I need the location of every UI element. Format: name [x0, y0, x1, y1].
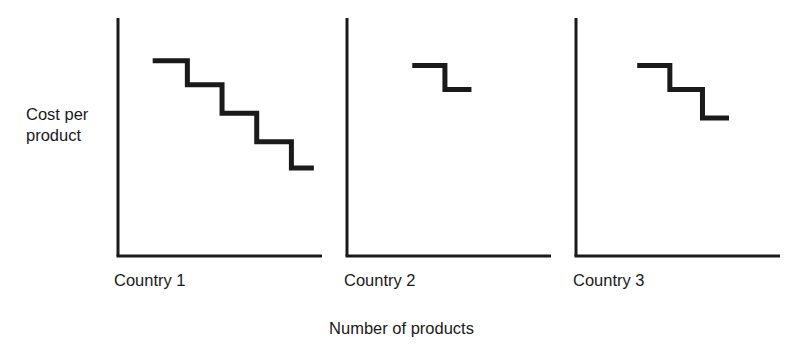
step-curve-country-2 — [412, 66, 471, 90]
economies-of-scale-figure: Cost per product Country 1 Country 2 Cou… — [0, 0, 803, 357]
panel-label-country-2: Country 2 — [344, 270, 416, 290]
axes-group — [117, 18, 781, 256]
y-axis-label: Cost per product — [26, 104, 118, 146]
step-curves-group — [153, 61, 729, 168]
panel-label-country-1: Country 1 — [114, 270, 186, 290]
step-curve-country-1 — [153, 61, 314, 168]
panel-label-country-3: Country 3 — [573, 270, 645, 290]
step-curve-country-3 — [637, 66, 729, 118]
x-axis-label: Number of products — [0, 318, 803, 338]
step-charts-canvas — [0, 0, 803, 357]
